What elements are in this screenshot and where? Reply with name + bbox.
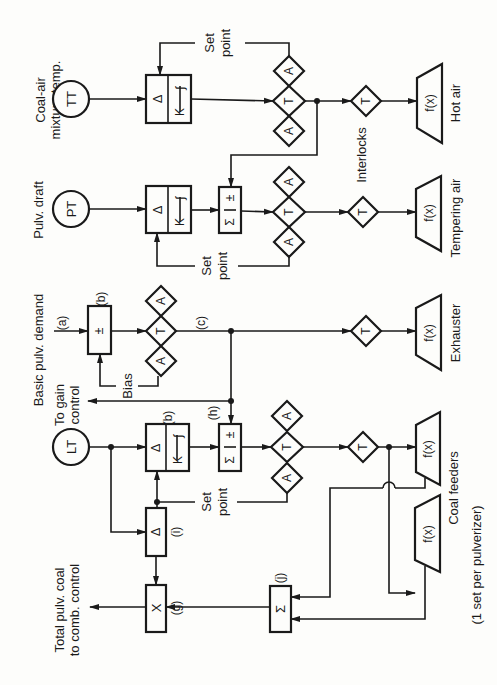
plusminus-glyph: ±: [92, 327, 106, 334]
to-gain-label: control: [67, 385, 82, 424]
tt-symbol: TT: [64, 91, 79, 107]
set-point-label: Set: [199, 492, 214, 512]
transfer-glyph: T: [356, 208, 370, 216]
bias-label: Bias: [120, 373, 135, 399]
transfer-glyph: T: [282, 208, 296, 216]
pt-row: Pulv. draft PT Δ ∫ K ± Σ A T A Set point…: [31, 127, 463, 280]
set-point-label: Set: [199, 256, 214, 276]
transfer-glyph: T: [359, 97, 373, 105]
plusminus-glyph: ±: [223, 194, 237, 201]
basic-demand-label: Basic pulv. demand: [31, 294, 46, 407]
tag-j: (j): [273, 573, 287, 584]
set-point-label: point: [218, 29, 233, 58]
auto-glyph: A: [282, 127, 296, 135]
transfer-glyph: T: [359, 327, 373, 335]
lt-symbol: LT: [64, 440, 79, 454]
tag-h: (h): [206, 406, 220, 421]
tag-i: (i): [169, 527, 183, 538]
tag-b: (b): [94, 292, 108, 307]
auto-glyph: A: [282, 178, 296, 186]
tag-c: (c): [194, 316, 208, 330]
transfer-glyph: T: [154, 327, 168, 335]
auto-glyph: A: [154, 357, 168, 365]
to-gain-label: To gain: [52, 384, 67, 426]
lt-row: LT (b) Δ ∫ K (h) ± Σ A T A Set point Δ: [52, 401, 484, 656]
set-point-label: point: [215, 252, 230, 281]
function-glyph: f(x): [421, 525, 435, 542]
sigma-glyph: Σ: [223, 456, 237, 463]
interlocks-label: Interlocks: [354, 127, 369, 183]
delta-glyph: Δ: [148, 443, 163, 452]
hot-air-label: Hot air: [448, 83, 463, 122]
integral-glyph: ∫: [173, 86, 187, 91]
auto-glyph: A: [280, 412, 294, 420]
k-glyph: K: [173, 218, 187, 226]
transfer-glyph: T: [280, 443, 294, 451]
integral-glyph: ∫: [173, 196, 187, 201]
coal-feeders-label: Coal feeders: [446, 451, 461, 525]
auto-glyph: A: [282, 238, 296, 246]
demand-row: Basic pulv. demand (a) (b) ± A T A Bias …: [31, 286, 463, 426]
control-diagram: Coal-air mixture temp. TT Δ ∫ K Set poin…: [0, 0, 497, 685]
total-coal-label: to comb. control: [67, 564, 82, 657]
per-pulverizer-label: (1 set per pulverizer): [469, 505, 484, 624]
sigma-glyph: Σ: [273, 605, 288, 613]
delta-glyph: Δ: [150, 94, 165, 103]
delta-glyph: Δ: [150, 205, 165, 214]
transfer-glyph: T: [356, 443, 370, 451]
integral-glyph: ∫: [171, 434, 185, 439]
pt-label: Pulv. draft: [31, 181, 46, 239]
exhauster-label: Exhauster: [448, 303, 463, 362]
transfer-glyph: T: [282, 97, 296, 105]
auto-glyph: A: [154, 297, 168, 305]
set-point-label: Set: [202, 33, 217, 53]
sigma-glyph: Σ: [223, 218, 237, 225]
tt-row: Coal-air mixture temp. TT Δ ∫ K Set poin…: [33, 29, 463, 187]
tag-g: (g): [169, 601, 183, 616]
tt-label-line1: Coal-air: [33, 77, 48, 123]
function-glyph: f(x): [421, 440, 435, 457]
plusminus-glyph: ±: [223, 431, 237, 438]
function-glyph: f(x): [422, 204, 436, 221]
auto-glyph: A: [280, 474, 294, 482]
k-glyph: K: [173, 108, 187, 116]
k-glyph: K: [171, 456, 185, 464]
set-point-label: point: [215, 488, 230, 517]
auto-glyph: A: [282, 67, 296, 75]
multiply-glyph: X: [149, 603, 164, 612]
delta-glyph: Δ: [148, 527, 163, 536]
function-glyph: f(x): [422, 324, 436, 341]
function-glyph: f(x): [423, 94, 437, 111]
total-coal-label: Total pulv. coal: [52, 567, 67, 652]
tempering-air-label: Tempering air: [448, 178, 463, 257]
tag-a: (a): [55, 316, 69, 331]
pt-symbol: PT: [64, 201, 79, 218]
